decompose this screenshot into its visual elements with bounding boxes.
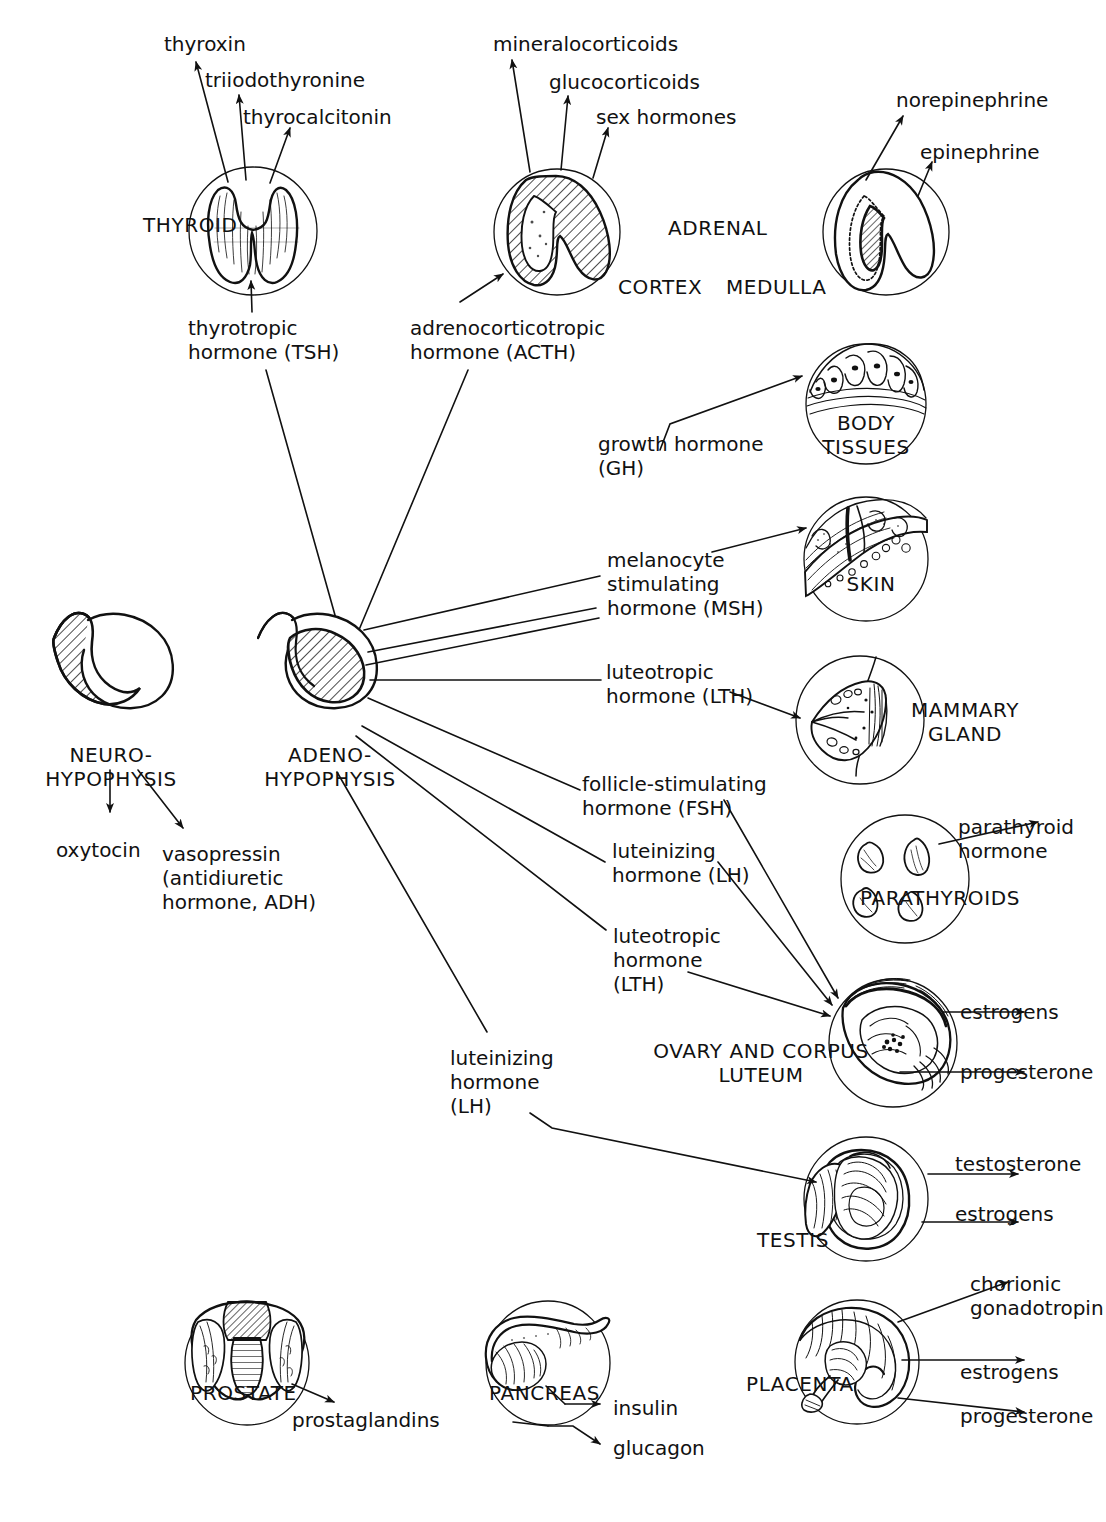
arrow-prostaglandins bbox=[292, 1384, 334, 1402]
label-adrenal: ADRENAL bbox=[668, 216, 768, 240]
label-thyroid: THYROID bbox=[143, 213, 238, 237]
label-estrogens-placenta: estrogens bbox=[960, 1360, 1059, 1384]
neurohypophysis-shape bbox=[53, 613, 173, 708]
arrow-glucocorticoids bbox=[561, 96, 568, 170]
label-testosterone: testosterone bbox=[955, 1152, 1081, 1176]
placenta-circle bbox=[795, 1300, 919, 1424]
arrow-tsh-to-thyroid bbox=[251, 281, 252, 312]
label-progesterone-ovary: progesterone bbox=[960, 1060, 1093, 1084]
label-body-tissues: BODY TISSUES bbox=[806, 411, 926, 459]
label-estrogens-testis: estrogens bbox=[955, 1202, 1054, 1226]
adrenal-cortex-circle bbox=[494, 169, 620, 295]
line-adeno-lh-testis bbox=[337, 772, 487, 1032]
adenohypophysis-shape bbox=[258, 613, 377, 708]
label-medulla: MEDULLA bbox=[726, 275, 827, 299]
label-ovary-corpus-luteum: OVARY AND CORPUS LUTEUM bbox=[639, 1039, 883, 1087]
arrow-glucagon bbox=[548, 1426, 600, 1444]
label-progesterone-placenta: progesterone bbox=[960, 1404, 1093, 1428]
label-thyrocalcitonin: thyrocalcitonin bbox=[243, 105, 392, 129]
label-parathyroid-hormone: parathyroid hormone bbox=[958, 815, 1074, 863]
label-triiodothyronine: triiodothyronine bbox=[205, 68, 365, 92]
arrow-fsh-ovary bbox=[724, 800, 838, 998]
label-estrogens-ovary: estrogens bbox=[960, 1000, 1059, 1024]
label-acth: adrenocorticotropic hormone (ACTH) bbox=[410, 316, 605, 364]
label-epinephrine: epinephrine bbox=[920, 140, 1040, 164]
label-skin: SKIN bbox=[821, 572, 921, 596]
label-prostate: PROSTATE bbox=[190, 1381, 297, 1405]
label-pancreas: PANCREAS bbox=[489, 1381, 600, 1405]
label-growth-hormone: growth hormone (GH) bbox=[598, 432, 763, 480]
arrow-thyrocalcitonin bbox=[270, 128, 290, 183]
label-lth-ovary: luteotropic hormone (LTH) bbox=[613, 924, 721, 996]
endocrine-diagram-canvas: thyroxin triiodothyronine thyrocalcitoni… bbox=[0, 0, 1106, 1522]
adrenal-medulla-circle bbox=[823, 169, 949, 295]
arrow-acth-to-cortex bbox=[460, 274, 503, 302]
line-adeno-gh bbox=[368, 608, 596, 652]
label-adenohypophysis: ADENO- HYPOPHYSIS bbox=[245, 743, 415, 791]
line-adeno-gh-top bbox=[364, 576, 600, 630]
line-adeno-msh-upper bbox=[366, 618, 599, 665]
prostate-circle bbox=[185, 1301, 309, 1425]
label-lth-mammary: luteotropic hormone (LTH) bbox=[606, 660, 753, 708]
label-thyrotropic-hormone: thyrotropic hormone (TSH) bbox=[188, 316, 339, 364]
label-norepinephrine: norepinephrine bbox=[896, 88, 1048, 112]
label-glucocorticoids: glucocorticoids bbox=[549, 70, 700, 94]
label-insulin: insulin bbox=[613, 1396, 678, 1420]
label-lh-testis: luteinizing hormone (LH) bbox=[450, 1046, 554, 1118]
label-mammary-gland: MAMMARY GLAND bbox=[898, 698, 1032, 746]
label-thyroxin: thyroxin bbox=[164, 32, 246, 56]
pancreas-circle bbox=[486, 1301, 610, 1425]
label-lh-ovary: luteinizing hormone (LH) bbox=[612, 839, 750, 887]
label-fsh: follicle-stimulating hormone (FSH) bbox=[582, 772, 767, 820]
arrow-sex-hormones bbox=[593, 128, 608, 178]
label-vasopressin: vasopressin (antidiuretic hormone, ADH) bbox=[162, 842, 316, 914]
label-sex-hormones: sex hormones bbox=[596, 105, 736, 129]
arrow-lh-testis bbox=[530, 1113, 816, 1182]
arrow-mineralocorticoids bbox=[512, 60, 530, 172]
label-prostaglandins: prostaglandins bbox=[292, 1408, 440, 1432]
label-mineralocorticoids: mineralocorticoids bbox=[493, 32, 678, 56]
label-testis: TESTIS bbox=[757, 1228, 829, 1252]
label-glucagon: glucagon bbox=[613, 1436, 705, 1460]
label-msh: melanocyte stimulating hormone (MSH) bbox=[607, 548, 763, 620]
label-cortex: CORTEX bbox=[618, 275, 702, 299]
label-oxytocin: oxytocin bbox=[56, 838, 141, 862]
line-adeno-tsh bbox=[266, 370, 342, 640]
line-adeno-acth bbox=[356, 370, 468, 637]
label-chorionic-gonadotropin: chorionic gonadotropin bbox=[970, 1272, 1104, 1320]
label-parathyroids: PARATHYROIDS bbox=[860, 886, 1020, 910]
parathyroids-circle bbox=[841, 815, 969, 943]
label-placenta: PLACENTA bbox=[746, 1372, 854, 1396]
skin-circle bbox=[804, 497, 928, 621]
label-neurohypophysis: NEURO- HYPOPHYSIS bbox=[30, 743, 192, 791]
